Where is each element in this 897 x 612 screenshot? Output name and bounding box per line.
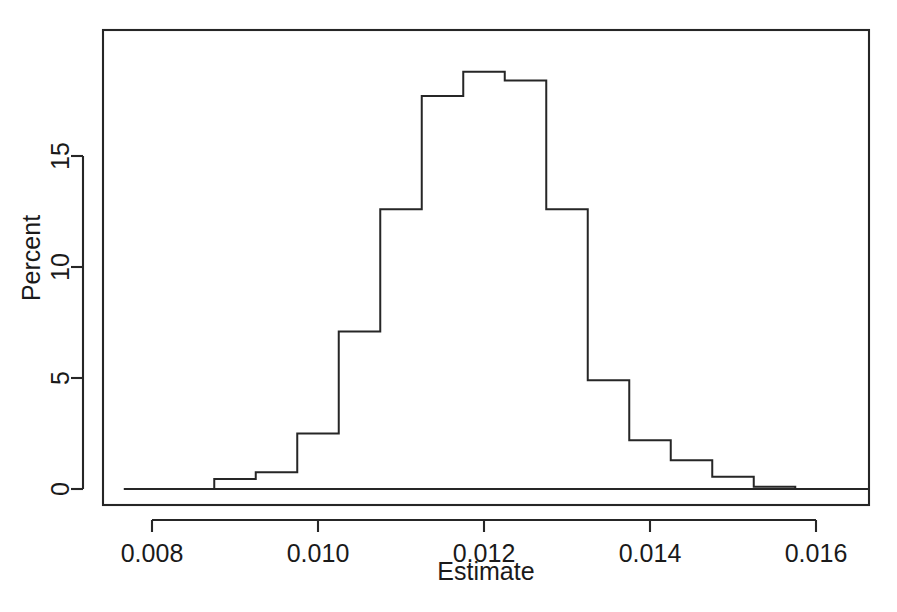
y-tick-label: 15: [46, 142, 74, 170]
plot-frame: [103, 30, 869, 505]
histogram-bar: [588, 380, 630, 489]
histogram-bars: [124, 72, 889, 489]
y-axis-title: Percent: [17, 215, 45, 301]
histogram-plot: 051015 0.0080.0100.0120.0140.016 Estimat…: [0, 0, 897, 612]
x-axis-title: Estimate: [437, 557, 534, 585]
x-tick-label: 0.014: [619, 539, 682, 567]
x-tick-label: 0.016: [785, 539, 848, 567]
histogram-bar: [214, 479, 256, 489]
y-tick-labels: 051015: [46, 142, 74, 496]
histogram-bar: [422, 96, 464, 489]
histogram-bar: [546, 209, 588, 489]
histogram-bar: [505, 81, 547, 489]
y-tick-label: 5: [46, 371, 74, 385]
histogram-bar: [629, 440, 671, 489]
histogram-bar: [256, 472, 298, 489]
histogram-bar: [297, 434, 339, 490]
histogram-bar: [712, 477, 754, 489]
histogram-bar: [671, 460, 713, 489]
x-tick-label: 0.008: [121, 539, 184, 567]
histogram-bar: [339, 331, 381, 489]
histogram-figure: 051015 0.0080.0100.0120.0140.016 Estimat…: [0, 0, 897, 612]
x-axis: [152, 520, 816, 532]
histogram-bar: [463, 72, 505, 489]
y-tick-label: 10: [46, 253, 74, 281]
histogram-bar: [380, 209, 422, 489]
histogram-outline: [214, 72, 795, 489]
x-tick-label: 0.010: [287, 539, 350, 567]
y-tick-label: 0: [46, 482, 74, 496]
y-axis: [71, 156, 83, 489]
